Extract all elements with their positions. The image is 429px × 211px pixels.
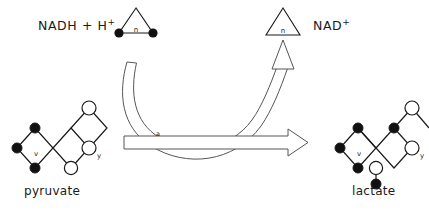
lactate-letter-v: v bbox=[357, 150, 361, 158]
pyruvate-letter-v: v bbox=[34, 150, 38, 158]
curved-arrow-head bbox=[272, 40, 294, 69]
pyruvate-atom-filled-bottom bbox=[30, 163, 40, 173]
lactate-atom-filled-top-left bbox=[353, 123, 363, 133]
reaction-arrow-letter: a bbox=[156, 130, 160, 138]
pyruvate-bonds bbox=[17, 108, 107, 168]
nadh-triangle-icon: n bbox=[114, 8, 157, 38]
diagram-vector-layer: n n a bbox=[0, 0, 429, 211]
nadh-atom-right bbox=[148, 28, 157, 37]
lactate-atom-filled-left bbox=[335, 143, 345, 153]
pyruvate-structure: v y bbox=[12, 101, 107, 175]
pyruvate-atom-filled-left bbox=[12, 143, 22, 153]
lactate-atom-open-bottom-mid bbox=[369, 161, 382, 174]
lactate-atom-open-top-right bbox=[405, 101, 419, 115]
reaction-diagram: NADH + H+ NAD+ pyruvate lactate n n a bbox=[0, 0, 429, 211]
lactate-letter-y: y bbox=[420, 152, 424, 160]
pyruvate-atom-filled-top bbox=[30, 123, 40, 133]
pyruvate-letter-y: y bbox=[97, 152, 101, 160]
nad-triangle-icon: n bbox=[266, 8, 300, 35]
pyruvate-atom-open-bottom-mid bbox=[64, 161, 77, 174]
lactate-atom-filled-hydroxyl-h bbox=[371, 179, 381, 189]
lactate-structure: v y bbox=[335, 101, 429, 189]
lactate-atom-filled-top-mid bbox=[389, 123, 399, 133]
lactate-atom-filled-bottom-left bbox=[353, 163, 363, 173]
nad-triangle-letter: n bbox=[281, 27, 285, 35]
nadh-triangle-letter: n bbox=[134, 26, 138, 34]
pyruvate-atom-open-bottom-right bbox=[82, 141, 96, 155]
nadh-atom-left bbox=[114, 28, 123, 37]
lactate-atom-open-bottom-right bbox=[405, 141, 419, 155]
pyruvate-atom-open-top-right bbox=[82, 101, 96, 115]
